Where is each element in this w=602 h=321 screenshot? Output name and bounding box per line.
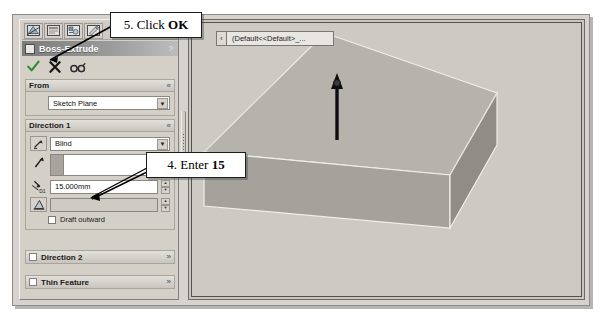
stepper-up-icon[interactable]: ▲ bbox=[161, 180, 170, 187]
chevron-up-icon[interactable]: « bbox=[167, 82, 171, 90]
group-direction1-header[interactable]: Direction 1 « bbox=[25, 119, 175, 132]
property-manager-icon[interactable] bbox=[44, 23, 63, 39]
start-condition-dropdown[interactable]: Sketch Plane ▼ bbox=[48, 96, 170, 110]
start-condition-value: Sketch Plane bbox=[53, 99, 97, 108]
end-condition-dropdown[interactable]: Blind ▼ bbox=[50, 137, 170, 151]
direction-arrow-icon bbox=[30, 154, 47, 169]
draft-angle-icon[interactable] bbox=[30, 197, 47, 212]
end-condition-value: Blind bbox=[55, 139, 72, 148]
stepper-down-icon[interactable]: ▼ bbox=[161, 187, 170, 194]
group-from-header[interactable]: From « bbox=[25, 79, 175, 92]
application-frame: Boss-Extrude ? bbox=[12, 14, 590, 306]
chevron-down-icon[interactable]: ▼ bbox=[157, 98, 168, 109]
block-top-face bbox=[204, 33, 497, 175]
configuration-manager-icon[interactable] bbox=[64, 23, 83, 39]
chevron-down-icon[interactable]: » bbox=[167, 278, 171, 286]
group-from-body: Sketch Plane ▼ bbox=[25, 92, 175, 116]
draft-outward-checkbox[interactable] bbox=[48, 216, 56, 224]
draft-angle-input[interactable] bbox=[50, 198, 158, 212]
group-direction2: Direction 2 » bbox=[25, 250, 175, 264]
ok-button[interactable] bbox=[27, 59, 40, 77]
draft-outward-label: Draft outward bbox=[60, 215, 105, 224]
svg-text:D1: D1 bbox=[39, 188, 46, 194]
thin-feature-checkbox[interactable] bbox=[29, 278, 37, 286]
group-thin-feature: Thin Feature » bbox=[25, 275, 175, 289]
screenshot-root: Boss-Extrude ? bbox=[0, 0, 602, 321]
group-thin-feature-header[interactable]: Thin Feature » bbox=[25, 275, 175, 289]
direction2-checkbox[interactable] bbox=[29, 253, 37, 261]
chevron-down-icon[interactable]: ▼ bbox=[157, 139, 168, 150]
cancel-button[interactable] bbox=[49, 59, 61, 77]
property-manager-action-row bbox=[22, 58, 178, 77]
callout-enter-15-text: 4. Enter 15 bbox=[167, 157, 224, 173]
property-manager-title-bar: Boss-Extrude ? bbox=[22, 41, 178, 56]
callout-ok-strong: OK bbox=[168, 17, 188, 32]
page-title: Boss-Extrude bbox=[39, 44, 99, 54]
depth-dimension-icon: D1 bbox=[30, 179, 47, 194]
stepper-down-icon[interactable]: ▼ bbox=[161, 205, 170, 212]
callout-click-ok-text: 5. Click OK bbox=[124, 17, 189, 33]
draft-angle-stepper[interactable]: ▲ ▼ bbox=[161, 198, 170, 212]
callout-15-prefix: 4. Enter bbox=[167, 157, 211, 172]
group-direction1-label: Direction 1 bbox=[29, 121, 70, 130]
group-direction1-body: Blind ▼ bbox=[25, 132, 175, 230]
feature-manager-tree-icon[interactable] bbox=[24, 23, 43, 39]
callout-15-strong: 15 bbox=[212, 157, 225, 172]
chevron-down-icon[interactable]: » bbox=[167, 253, 171, 261]
group-thin-feature-label: Thin Feature bbox=[41, 278, 89, 287]
preview-button[interactable] bbox=[70, 59, 86, 77]
chevron-up-icon[interactable]: « bbox=[167, 122, 171, 130]
graphics-canvas[interactable] bbox=[191, 22, 582, 297]
display-manager-icon[interactable] bbox=[84, 23, 103, 39]
graphics-viewport[interactable] bbox=[188, 19, 585, 300]
callout-click-ok: 5. Click OK bbox=[110, 12, 202, 38]
help-icon[interactable]: ? bbox=[169, 44, 175, 53]
model-block-svg bbox=[192, 23, 582, 297]
group-from: From « Sketch Plane ▼ bbox=[25, 79, 175, 116]
selection-color-swatch bbox=[51, 155, 64, 175]
group-direction2-label: Direction 2 bbox=[41, 253, 82, 262]
reverse-direction-icon[interactable] bbox=[30, 136, 47, 151]
callout-ok-prefix: 5. Click bbox=[124, 17, 168, 32]
group-from-label: From bbox=[29, 81, 49, 90]
boss-extrude-feature-icon bbox=[25, 44, 35, 54]
depth-stepper[interactable]: ▲ ▼ bbox=[161, 180, 170, 194]
depth-input[interactable]: 15.000mm bbox=[50, 180, 158, 194]
stepper-up-icon[interactable]: ▲ bbox=[161, 198, 170, 205]
depth-value: 15.000mm bbox=[55, 182, 90, 191]
document-name-text: (Default<<Default>_... bbox=[232, 34, 306, 43]
draft-outward-checkbox-row[interactable]: Draft outward bbox=[30, 215, 170, 224]
chevron-left-icon: ‹ bbox=[220, 35, 222, 42]
callout-enter-15: 4. Enter 15 bbox=[146, 152, 246, 178]
group-direction2-header[interactable]: Direction 2 » bbox=[25, 250, 175, 264]
document-name-bar[interactable]: (Default<<Default>_... bbox=[226, 31, 334, 46]
